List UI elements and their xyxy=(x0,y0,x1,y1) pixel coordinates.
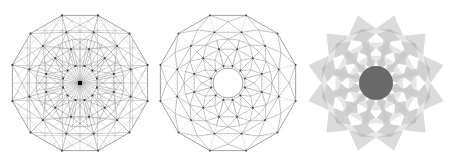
dual-canvas xyxy=(152,0,304,166)
triangulation-canvas xyxy=(0,0,152,166)
figure-shaded xyxy=(300,0,452,166)
figure-triangulation xyxy=(0,0,152,166)
figure-panel xyxy=(0,0,452,166)
figure-dual xyxy=(152,0,304,166)
shaded-canvas xyxy=(300,0,452,166)
